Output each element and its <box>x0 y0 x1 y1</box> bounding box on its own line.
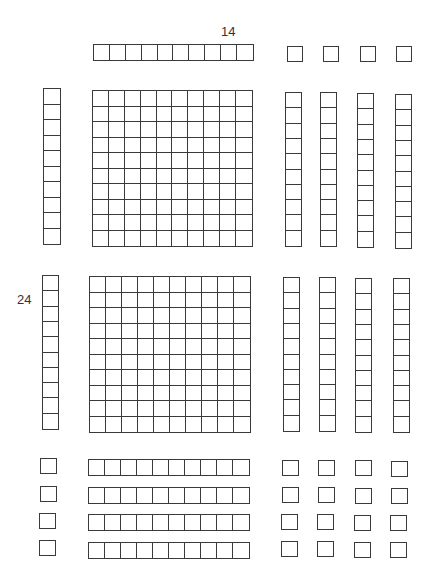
unit-cell <box>172 169 188 185</box>
unit-cell <box>189 45 205 60</box>
unit-cube-block <box>354 542 371 558</box>
unit-cell <box>90 339 106 355</box>
unit-cell <box>236 153 252 169</box>
unit-cube-block <box>391 488 408 504</box>
unit-cube-block <box>391 461 408 477</box>
ten-rod-vertical-block <box>393 278 410 433</box>
unit-cell <box>356 340 371 355</box>
unit-cell <box>109 107 125 123</box>
unit-cell <box>202 308 218 324</box>
unit-cube-block <box>282 487 299 503</box>
unit-cube-block <box>282 460 299 476</box>
ten-rod-vertical-block <box>355 278 372 433</box>
unit-cell <box>286 231 301 246</box>
unit-cell <box>109 91 125 107</box>
unit-cell <box>188 231 204 247</box>
unit-cell <box>125 122 141 138</box>
unit-cell <box>138 324 154 340</box>
unit-cell <box>43 398 58 413</box>
unit-cell <box>154 324 170 340</box>
unit-cell <box>106 386 122 402</box>
unit-cell <box>141 138 157 154</box>
unit-cell <box>188 91 204 107</box>
unit-cell <box>93 215 109 231</box>
unit-cell <box>394 340 409 355</box>
unit-cell <box>89 460 105 475</box>
unit-cell <box>356 325 371 340</box>
unit-cell <box>394 356 409 371</box>
unit-cell <box>41 487 56 501</box>
unit-cell <box>170 417 186 433</box>
unit-cell <box>320 370 335 385</box>
unit-cell <box>282 515 297 529</box>
unit-cell <box>205 45 221 60</box>
unit-cell <box>106 417 122 433</box>
unit-cell <box>233 543 249 558</box>
unit-cell <box>44 182 60 198</box>
unit-cube-block <box>317 514 334 530</box>
unit-cell <box>141 231 157 247</box>
unit-cell <box>202 370 218 386</box>
unit-cell <box>202 401 218 417</box>
unit-cell <box>154 370 170 386</box>
unit-cell <box>125 184 141 200</box>
unit-cell <box>320 339 335 354</box>
unit-cube-block <box>396 46 412 62</box>
unit-cell <box>234 370 250 386</box>
unit-cell <box>321 215 336 230</box>
unit-cell <box>89 515 105 530</box>
unit-cell <box>169 543 185 558</box>
unit-cell <box>202 293 218 309</box>
unit-cell <box>125 169 141 185</box>
unit-cell <box>234 277 250 293</box>
unit-cell <box>397 47 411 61</box>
unit-cell <box>170 355 186 371</box>
unit-cell <box>202 324 218 340</box>
unit-cell <box>93 184 109 200</box>
unit-cell <box>153 543 169 558</box>
unit-cell <box>234 401 250 417</box>
unit-cell <box>220 91 236 107</box>
unit-cell <box>157 169 173 185</box>
unit-cell <box>233 460 249 475</box>
unit-cell <box>138 401 154 417</box>
unit-cell <box>172 153 188 169</box>
unit-cell <box>202 417 218 433</box>
unit-cell <box>186 401 202 417</box>
unit-cell <box>286 108 301 123</box>
unit-cell <box>44 136 60 152</box>
unit-cell <box>93 231 109 247</box>
unit-cube-block <box>390 542 407 558</box>
unit-cell <box>43 337 58 352</box>
unit-cell <box>204 122 220 138</box>
unit-cell <box>356 279 371 294</box>
unit-cell <box>43 291 58 306</box>
unit-cell <box>356 489 371 503</box>
unit-cell <box>172 184 188 200</box>
unit-cell <box>90 355 106 371</box>
unit-cell <box>43 322 58 337</box>
unit-cell <box>122 417 138 433</box>
unit-cell <box>154 401 170 417</box>
ten-rod-vertical-block <box>319 277 336 432</box>
unit-cube-block <box>323 46 339 62</box>
unit-cell <box>40 541 55 555</box>
unit-cell <box>137 488 153 503</box>
unit-cell <box>356 371 371 386</box>
unit-cell <box>93 153 109 169</box>
unit-cell <box>126 45 142 60</box>
unit-cell <box>93 169 109 185</box>
unit-cell <box>154 293 170 309</box>
unit-cell <box>186 339 202 355</box>
unit-cell <box>204 91 220 107</box>
unit-cell <box>44 120 60 136</box>
unit-cell <box>186 293 202 309</box>
unit-cell <box>221 45 237 60</box>
unit-cell <box>170 370 186 386</box>
unit-cell <box>321 231 336 246</box>
unit-cell <box>106 293 122 309</box>
unit-cell <box>138 386 154 402</box>
unit-cube-block <box>39 540 56 556</box>
unit-cell <box>218 339 234 355</box>
ten-rod-vertical-block <box>320 92 337 247</box>
